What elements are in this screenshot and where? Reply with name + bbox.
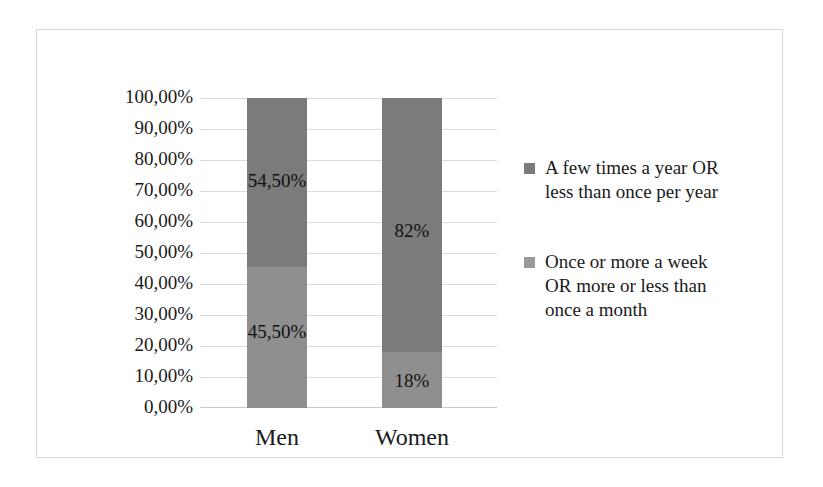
x-category-label-men: Men xyxy=(212,422,342,452)
y-axis: 100,00% 90,00% 80,00% 70,00% 60,00% 50,0… xyxy=(73,86,193,420)
gridline xyxy=(200,191,497,192)
chart-frame: 100,00% 90,00% 80,00% 70,00% 60,00% 50,0… xyxy=(36,29,783,458)
bar-group-women[interactable]: 82% 18% xyxy=(382,98,442,408)
gridline xyxy=(200,284,497,285)
axis-baseline xyxy=(200,407,497,408)
bar-value-label-women-series1: 18% xyxy=(382,371,442,391)
legend-label-line: Once or more a week xyxy=(545,250,809,274)
bar-value-label-men-series0: 54,50% xyxy=(215,171,339,191)
legend-entry-series1[interactable]: Once or more a week OR more or less than… xyxy=(524,250,809,322)
bar-value-label-men-series1: 45,50% xyxy=(215,322,339,342)
y-tick-label: 70,00% xyxy=(73,179,193,201)
bar-group-men[interactable]: 54,50% 45,50% xyxy=(247,98,307,408)
bar-value-label-women-series0: 82% xyxy=(382,221,442,241)
y-tick-label: 30,00% xyxy=(73,303,193,325)
y-tick-label: 50,00% xyxy=(73,241,193,263)
gridline xyxy=(200,129,497,130)
gridline xyxy=(200,160,497,161)
y-tick-label: 80,00% xyxy=(73,148,193,170)
legend-label-line: A few times a year OR xyxy=(545,156,809,180)
gridline xyxy=(200,222,497,223)
y-tick-label: 20,00% xyxy=(73,334,193,356)
chart-legend: A few times a year OR less than once per… xyxy=(524,156,809,368)
x-axis: Men Women xyxy=(200,422,497,456)
legend-label-line: once a month xyxy=(545,298,809,322)
gridline xyxy=(200,98,497,99)
y-tick-label: 10,00% xyxy=(73,365,193,387)
legend-label-line: less than once per year xyxy=(545,180,809,204)
legend-swatch-icon xyxy=(524,257,535,268)
y-tick-label: 90,00% xyxy=(73,117,193,139)
legend-entry-series0[interactable]: A few times a year OR less than once per… xyxy=(524,156,809,204)
gridline xyxy=(200,377,497,378)
legend-label-line: OR more or less than xyxy=(545,274,809,298)
legend-swatch-icon xyxy=(524,163,535,174)
plot-area: 54,50% 45,50% 82% 18% xyxy=(200,98,497,408)
y-tick-label: 100,00% xyxy=(73,86,193,108)
x-category-label-women: Women xyxy=(347,422,477,452)
y-tick-label: 0,00% xyxy=(73,396,193,418)
gridline xyxy=(200,346,497,347)
gridline xyxy=(200,253,497,254)
y-tick-label: 60,00% xyxy=(73,210,193,232)
y-tick-label: 40,00% xyxy=(73,272,193,294)
gridline xyxy=(200,315,497,316)
